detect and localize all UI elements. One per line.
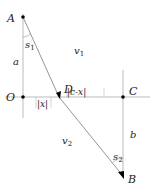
label-angle-s1: s1 <box>25 39 35 52</box>
arrowhead-b <box>118 171 124 179</box>
label-b: B <box>127 173 136 186</box>
label-c-minus-x: |c-x| <box>67 87 86 98</box>
label-c: C <box>129 85 138 98</box>
label-segment-b: b <box>130 129 136 140</box>
label-segment-a: a <box>13 56 19 67</box>
point-c <box>121 95 125 99</box>
point-o <box>21 95 25 99</box>
diagram-canvas: A O C D B a b |x| |c-x| s1 s2 v1 v2 <box>0 0 152 193</box>
label-region-v1: v1 <box>74 45 84 58</box>
path-db <box>59 97 123 176</box>
label-region-v2: v2 <box>62 135 72 148</box>
label-x: |x| <box>37 99 48 110</box>
label-a: A <box>6 12 15 25</box>
label-angle-s2: s2 <box>113 151 123 164</box>
point-a <box>21 15 25 19</box>
angle-arc-s1 <box>23 34 31 37</box>
label-o: O <box>6 91 15 104</box>
path-ad <box>23 17 59 97</box>
